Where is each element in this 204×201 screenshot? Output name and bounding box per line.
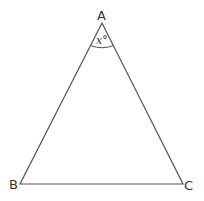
vertex-label-a: A <box>97 8 106 23</box>
triangle-diagram: A B C x° <box>0 0 204 201</box>
angle-label-a: x° <box>96 34 108 47</box>
vertex-label-b: B <box>9 177 18 192</box>
vertex-label-c: C <box>184 178 193 193</box>
triangle-abc <box>20 23 183 184</box>
